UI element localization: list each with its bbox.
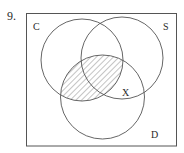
problem-number: 9. (7, 9, 16, 23)
set-s-label: S (163, 21, 169, 32)
region-x-label: X (122, 87, 130, 98)
set-c-label: C (33, 21, 40, 32)
venn-diagram-figure: 9. C S D X (0, 0, 184, 153)
set-d-label: D (151, 129, 158, 140)
